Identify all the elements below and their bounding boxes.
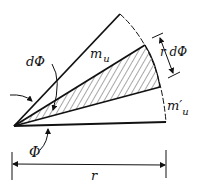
baseline — [14, 122, 166, 126]
mu-label: mu — [90, 46, 110, 64]
rdphi-label: r dΦ — [160, 45, 187, 59]
upper-angle-arrow — [10, 95, 32, 101]
rdphi-tick-bottom — [168, 72, 180, 78]
m-prime-u-label: m′u — [167, 98, 189, 117]
r-dimension-arrow — [13, 164, 165, 165]
dphi-label: dΦ — [26, 54, 45, 69]
yield-line-sector-diagram: dΦ mu r dΦ m′u Φ r — [0, 0, 205, 193]
phi-label: Φ — [29, 144, 40, 160]
phi-leader-arrow — [40, 129, 48, 150]
r-label: r — [91, 168, 98, 183]
rdphi-tick-top — [152, 33, 163, 38]
